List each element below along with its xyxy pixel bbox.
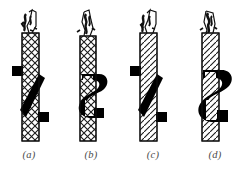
panel-c-tab-lower-right	[156, 112, 167, 122]
panel-b-cable-through-lower	[85, 100, 94, 116]
caption-panel-b: (b)	[76, 149, 106, 160]
panel-a-tab-upper-left	[12, 66, 23, 76]
wire-rope-termination-diagram	[0, 0, 244, 174]
panel-d-cable-through-lower	[206, 100, 217, 120]
caption-panel-c: (c)	[138, 149, 168, 160]
panel-c-tab-upper-left	[130, 66, 141, 76]
figure-root: (a) (b) (c) (d)	[0, 0, 244, 174]
caption-panel-d: (d)	[200, 149, 230, 160]
panel-d-cable-through-upper	[205, 72, 216, 88]
panel-a-tab-lower-right	[38, 112, 49, 122]
panel-b-cable-through-upper	[83, 76, 93, 90]
caption-row: (a) (b) (c) (d)	[0, 149, 244, 169]
caption-panel-a: (a)	[14, 149, 44, 160]
